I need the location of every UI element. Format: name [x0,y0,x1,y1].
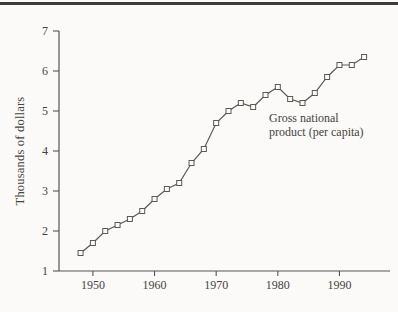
data-point-marker [189,161,194,166]
y-tick-label: 7 [42,24,48,38]
data-point-marker [127,217,132,222]
data-point-marker [201,147,206,152]
data-point-marker [152,197,157,202]
data-point-marker [140,209,145,214]
data-point-marker [164,187,169,192]
data-point-marker [214,121,219,126]
y-tick-label: 2 [42,224,48,238]
data-point-marker [288,97,293,102]
data-point-marker [275,85,280,90]
data-point-marker [78,251,83,256]
y-axis-title: Thousands of dollars [13,97,28,206]
data-point-marker [362,55,367,60]
chart-area: 123456719501960197019801990 Thousands of… [0,0,398,312]
data-point-marker [337,63,342,68]
data-point-marker [300,101,305,106]
x-tick-label: 1980 [266,278,290,292]
data-point-marker [325,75,330,80]
series-annotation: Gross national product (per capita) [269,112,364,139]
y-tick-label: 5 [42,104,48,118]
data-point-marker [177,181,182,186]
data-point-marker [103,229,108,234]
annotation-line-2: product (per capita) [269,126,364,140]
y-tick-label: 1 [42,264,48,278]
x-tick-label: 1960 [143,278,167,292]
data-point-marker [238,101,243,106]
data-point-marker [226,109,231,114]
annotation-line-1: Gross national [269,112,364,126]
y-tick-label: 3 [42,184,48,198]
data-point-marker [115,223,120,228]
data-point-marker [90,241,95,246]
x-tick-label: 1990 [327,278,351,292]
data-point-marker [349,63,354,68]
gnp-series-line [81,57,365,253]
data-point-marker [312,91,317,96]
x-tick-label: 1970 [204,278,228,292]
x-tick-label: 1950 [81,278,105,292]
y-tick-label: 4 [42,144,48,158]
gnp-line-chart: 123456719501960197019801990 [0,0,398,312]
figure-page: 123456719501960197019801990 Thousands of… [0,0,398,312]
y-tick-label: 6 [42,64,48,78]
data-point-marker [263,93,268,98]
data-point-marker [251,105,256,110]
